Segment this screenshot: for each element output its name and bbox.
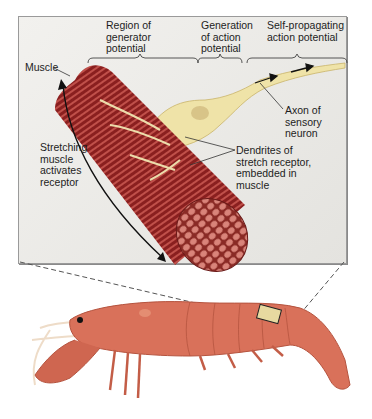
label-region-generator: Region ofgeneratorpotential	[106, 20, 151, 55]
crayfish-illustration	[32, 302, 350, 398]
label-generation-action: Generationof actionpotential	[201, 20, 253, 55]
label-dendrites: Dendrites ofstretch receptor,embedded in…	[236, 145, 311, 191]
label-axon: Axon ofsensoryneuron	[285, 105, 322, 140]
region-braces	[88, 54, 347, 63]
label-muscle: Muscle	[25, 62, 58, 74]
label-stretching: Stretchingmuscleactivatesreceptor	[40, 142, 87, 188]
label-self-propagating: Self-propagatingaction potential	[267, 20, 344, 43]
